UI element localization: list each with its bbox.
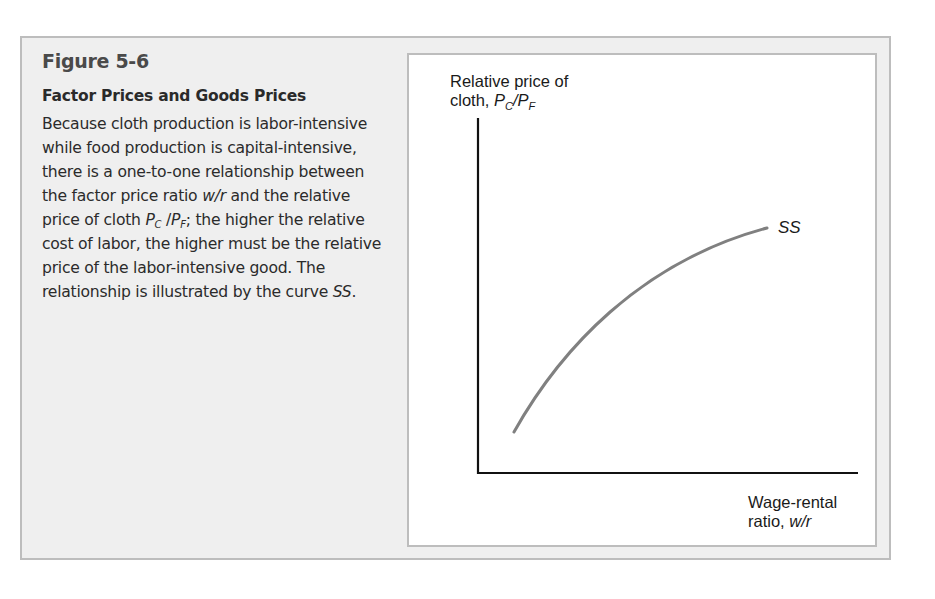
x-axis-label: Wage-rental ratio, w/r (748, 493, 837, 531)
x-axis-label-line2: ratio, w/r (748, 512, 837, 531)
x-axis-label-line1: Wage-rental (748, 493, 837, 512)
ss-curve (514, 228, 767, 432)
ss-curve-label: SS (778, 218, 801, 238)
